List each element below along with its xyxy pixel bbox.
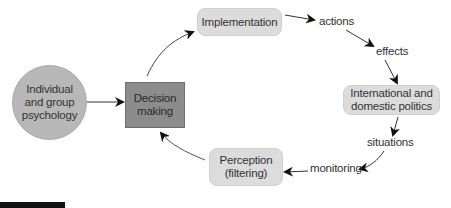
- node-label-line: psychology: [22, 109, 78, 122]
- black-bar-decoration: [0, 202, 65, 208]
- arrow-decision-to-implementation: [147, 32, 193, 76]
- edge-label-situations: situations: [367, 136, 414, 148]
- node-label-line: Individual: [22, 83, 78, 96]
- node-label-line: and group: [22, 96, 78, 109]
- node-label-line: Perception: [220, 154, 273, 167]
- diagram-canvas: Individual and group psychology Decision…: [0, 0, 451, 208]
- node-label-line: domestic politics: [350, 100, 432, 113]
- arrow-politics-to-situations: [393, 117, 398, 135]
- node-label-line: (filtering): [220, 167, 273, 180]
- node-decision-making: Decision making: [125, 82, 185, 128]
- node-international-domestic-politics: International and domestic politics: [343, 85, 440, 115]
- node-label-line: International and: [350, 87, 432, 100]
- node-label-line: making: [134, 105, 177, 118]
- arrow-situations-to-monitoring: [360, 151, 384, 169]
- edge-label-actions: actions: [319, 15, 354, 27]
- edge-label-effects: effects: [376, 45, 408, 57]
- arrow-monitoring-to-perception: [285, 171, 308, 172]
- node-label-line: Decision: [134, 92, 177, 105]
- node-implementation: Implementation: [197, 8, 282, 36]
- node-individual-group-psychology: Individual and group psychology: [12, 65, 87, 140]
- arrow-perception-to-decision: [161, 133, 205, 160]
- arrow-implementation-to-actions: [285, 15, 314, 20]
- node-perception-filtering: Perception (filtering): [209, 148, 283, 186]
- node-label-line: Implementation: [202, 16, 278, 29]
- edge-label-monitoring: monitoring: [310, 162, 362, 174]
- arrow-actions-to-effects: [346, 30, 373, 46]
- arrow-effects-to-politics: [385, 60, 397, 83]
